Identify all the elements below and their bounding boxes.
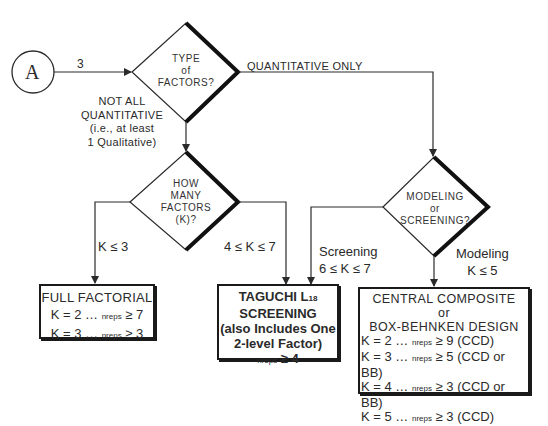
- edge-label-3: 3: [77, 58, 84, 70]
- nreps-label: nreps: [412, 414, 432, 423]
- ccd-row: K = 4 … nreps ≥ 3 (CCD or BB): [361, 380, 528, 410]
- reps-value: ≥ 3: [122, 326, 144, 341]
- reps-value: ≥ 9 (CCD): [432, 333, 494, 348]
- reps-value: ≥ 7: [122, 307, 144, 322]
- quantitative-line: QUANTITATIVE: [66, 109, 178, 123]
- how-line: HOW: [151, 178, 221, 190]
- taguchi-reps: nreps ≥ 4: [219, 351, 337, 368]
- decision-type-text: TYPE of FACTORS?: [151, 53, 221, 89]
- screening-line: Screening: [319, 243, 378, 260]
- full-factorial-title: FULL FACTORIAL: [41, 289, 153, 306]
- ccd-row: K = 3 … nreps ≥ 5 (CCD or BB): [361, 350, 528, 380]
- edge-label-k-4-to-7: 4 ≤ K ≤ 7: [224, 240, 276, 253]
- connector-a-label: A: [25, 62, 39, 82]
- decision-how-many-text: HOW MANY FACTORS (K)?: [151, 178, 221, 226]
- taguchi-line: SCREENING: [219, 306, 337, 321]
- nreps-label: nreps: [102, 331, 122, 340]
- or-line: or: [395, 203, 475, 215]
- screening-line: SCREENING?: [395, 215, 475, 227]
- outcome-taguchi-screening: TAGUCHI L18 SCREENING (also Includes One…: [217, 284, 339, 360]
- modeling-range-line: K ≤ 5: [456, 262, 509, 279]
- type-line: TYPE: [151, 53, 221, 65]
- nreps-label: nreps: [257, 356, 277, 365]
- k-value: K = 4 …: [361, 379, 412, 394]
- factors-line: FACTORS: [151, 202, 221, 214]
- taguchi-title: TAGUCHI L18: [219, 289, 337, 306]
- k-value: K = 2 …: [361, 333, 412, 348]
- k-value: K = 2 …: [51, 307, 102, 322]
- ccd-row: K = 5 … nreps ≥ 3 (CCD): [361, 410, 528, 426]
- outcome-ccd-bb: CENTRAL COMPOSITE or BOX-BEHNKEN DESIGN …: [358, 287, 530, 394]
- k-value: K = 3 …: [361, 349, 412, 364]
- edge-label-screening: Screening 6 ≤ K ≤ 7: [319, 243, 378, 277]
- taguchi-title-sub: 18: [308, 294, 317, 303]
- outcome-full-factorial: FULL FACTORIAL K = 2 … nreps ≥ 7 K = 3 ……: [39, 284, 155, 339]
- taguchi-title-main: TAGUCHI L: [239, 289, 309, 304]
- reps-value: ≥ 4: [277, 351, 299, 366]
- ie-line: (i.e., at least: [66, 122, 178, 136]
- many-line: MANY: [151, 190, 221, 202]
- nreps-label: nreps: [412, 354, 432, 363]
- ccd-row: K = 2 … nreps ≥ 9 (CCD): [361, 334, 528, 350]
- k-line: (K)?: [151, 214, 221, 226]
- edge-label-quantitative-only: QUANTITATIVE ONLY: [247, 61, 363, 72]
- edge-quantitative-only: [238, 72, 433, 156]
- modeling-line: Modeling: [456, 245, 509, 262]
- nreps-label: nreps: [412, 384, 432, 393]
- ccd-or: or: [360, 306, 528, 320]
- k-value: K = 5 …: [361, 409, 412, 424]
- factors-line: FACTORS?: [151, 77, 221, 89]
- modeling-line: MODELING: [395, 191, 475, 203]
- of-line: of: [151, 65, 221, 77]
- decision-modeling-text: MODELING or SCREENING?: [395, 191, 475, 227]
- bb-title: BOX-BEHNKEN DESIGN: [360, 320, 528, 334]
- k-value: K = 3 …: [51, 326, 102, 341]
- taguchi-line: 2-level Factor): [219, 336, 337, 351]
- screening-range-line: 6 ≤ K ≤ 7: [319, 260, 378, 277]
- reps-value: ≥ 3 (CCD): [432, 409, 494, 424]
- full-factorial-row: K = 3 … nreps ≥ 3: [41, 325, 153, 344]
- edge-label-k-le-3: K ≤ 3: [98, 240, 128, 253]
- full-factorial-row: K = 2 … nreps ≥ 7: [41, 306, 153, 325]
- nreps-label: nreps: [102, 312, 122, 321]
- edge-label-not-all-quantitative: NOT ALL QUANTITATIVE (i.e., at least 1 Q…: [66, 95, 178, 149]
- edge-label-modeling: Modeling K ≤ 5: [456, 245, 509, 279]
- not-all-line: NOT ALL: [66, 95, 178, 109]
- nreps-label: nreps: [412, 338, 432, 347]
- ccd-title: CENTRAL COMPOSITE: [360, 292, 528, 306]
- qualitative-line: 1 Qualitative): [66, 136, 178, 150]
- taguchi-line: (also Includes One: [219, 321, 337, 336]
